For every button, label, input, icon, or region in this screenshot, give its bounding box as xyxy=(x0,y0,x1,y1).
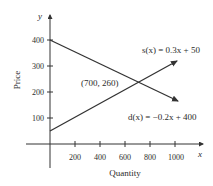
chart: 200 400 600 800 1000 400 300 200 100 y x… xyxy=(0,0,213,186)
y-tick-label: 200 xyxy=(32,88,44,97)
x-axis-title: Quantity xyxy=(109,168,141,178)
x-axis-name: x xyxy=(197,149,202,159)
x-tick-label: 600 xyxy=(119,153,131,162)
x-tick-label: 400 xyxy=(94,153,106,162)
y-axis-title: Price xyxy=(12,71,22,90)
y-tick-label: 400 xyxy=(32,36,44,45)
supply-equation-label: s(x) = 0.3x + 50 xyxy=(142,45,200,55)
y-tick-label: 100 xyxy=(32,114,44,123)
y-tick-label: 300 xyxy=(32,62,44,71)
x-tick-label: 800 xyxy=(144,153,156,162)
x-tick-label: 200 xyxy=(69,153,81,162)
intersection-label: (700, 260) xyxy=(81,78,119,88)
x-tick-label: 1000 xyxy=(168,153,184,162)
y-axis-name: y xyxy=(37,11,42,21)
demand-equation-label: d(x) = −0.2x + 400 xyxy=(128,112,197,122)
